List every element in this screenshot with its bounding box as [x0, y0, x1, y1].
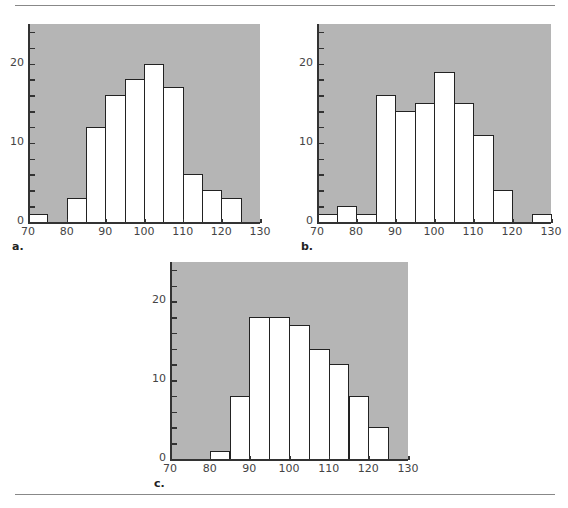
x-tick	[434, 219, 436, 223]
histogram-bar	[415, 103, 436, 222]
x-tick-label: 100	[129, 225, 159, 238]
y-tick	[170, 301, 177, 303]
x-tick-label: 80	[341, 225, 371, 238]
y-tick	[170, 396, 177, 398]
y-tick-label: 10	[293, 135, 313, 148]
y-tick	[170, 427, 177, 429]
x-tick-label: 110	[458, 225, 488, 238]
x-tick-label: 70	[13, 225, 43, 238]
histogram-bar	[349, 396, 370, 459]
y-tick	[170, 270, 177, 272]
x-tick-label: 80	[52, 225, 82, 238]
x-tick	[260, 219, 262, 223]
y-tick-label: 20	[146, 293, 166, 306]
x-tick	[512, 219, 514, 223]
x-tick	[317, 219, 319, 223]
histogram-bar	[269, 317, 290, 459]
y-tick	[28, 174, 35, 176]
y-axis	[28, 24, 30, 222]
y-tick	[170, 349, 177, 351]
x-tick	[67, 219, 69, 223]
y-tick	[317, 190, 324, 192]
y-tick	[317, 79, 324, 81]
y-tick	[28, 127, 35, 129]
histogram-bar	[105, 95, 125, 222]
y-tick	[170, 412, 177, 414]
histogram-bar	[230, 396, 251, 459]
x-tick	[28, 219, 30, 223]
x-tick-label: 130	[245, 225, 275, 238]
x-tick	[289, 456, 291, 460]
panel-label: b.	[301, 240, 313, 253]
x-tick-label: 110	[168, 225, 198, 238]
y-tick	[28, 206, 35, 208]
histogram-bar	[28, 214, 48, 222]
x-tick	[395, 219, 397, 223]
x-tick	[473, 219, 475, 223]
histogram-bar	[368, 427, 389, 459]
histogram-bar	[249, 317, 270, 459]
y-tick-label: 20	[293, 56, 313, 69]
x-tick-label: 70	[302, 225, 332, 238]
histogram-bar	[289, 325, 310, 459]
x-tick	[249, 456, 251, 460]
x-tick-label: 120	[206, 225, 236, 238]
histogram-bar	[86, 127, 106, 222]
histogram-bar	[434, 72, 455, 222]
histogram-bar	[356, 214, 377, 222]
y-axis	[317, 24, 319, 222]
y-tick	[317, 48, 324, 50]
x-tick-label: 110	[314, 462, 344, 475]
histogram-bar	[183, 174, 203, 222]
histogram-bar	[376, 95, 397, 222]
x-tick-label: 130	[393, 462, 423, 475]
x-tick	[183, 219, 185, 223]
y-tick	[170, 286, 177, 288]
top-rule	[15, 5, 555, 6]
histogram-bar	[317, 214, 338, 222]
histogram-bar	[454, 103, 475, 222]
histogram-bar	[144, 64, 164, 222]
x-tick	[551, 219, 553, 223]
y-tick	[317, 95, 324, 97]
y-tick	[28, 143, 35, 145]
x-tick	[356, 219, 358, 223]
histogram-bar	[210, 451, 231, 459]
y-tick-label: 10	[146, 372, 166, 385]
histogram-bar	[395, 111, 416, 222]
bottom-rule	[15, 494, 555, 495]
y-tick	[170, 443, 177, 445]
histogram-bar	[67, 198, 87, 222]
x-tick-label: 100	[274, 462, 304, 475]
y-tick	[28, 32, 35, 34]
histogram-bar	[337, 206, 358, 222]
panel-label: c.	[154, 477, 165, 490]
y-tick	[28, 190, 35, 192]
histogram-bar	[493, 190, 514, 222]
x-tick-label: 90	[234, 462, 264, 475]
x-tick-label: 130	[536, 225, 566, 238]
y-tick	[317, 206, 324, 208]
x-tick-label: 100	[419, 225, 449, 238]
y-tick	[317, 32, 324, 34]
x-tick-label: 70	[155, 462, 185, 475]
y-tick-label: 20	[4, 56, 24, 69]
y-tick-label: 10	[4, 135, 24, 148]
histogram-bar	[202, 190, 222, 222]
y-tick	[28, 111, 35, 113]
y-axis	[170, 262, 172, 459]
y-tick	[317, 174, 324, 176]
y-tick	[170, 317, 177, 319]
x-tick	[221, 219, 223, 223]
y-tick	[317, 111, 324, 113]
y-tick	[317, 143, 324, 145]
y-tick	[170, 364, 177, 366]
x-tick-label: 90	[380, 225, 410, 238]
histogram-bar	[329, 364, 350, 459]
histogram-bar	[309, 349, 330, 459]
x-tick-label: 80	[195, 462, 225, 475]
x-tick-label: 120	[497, 225, 527, 238]
y-tick	[317, 64, 324, 66]
histogram-bar	[473, 135, 494, 222]
panel-label: a.	[12, 240, 24, 253]
